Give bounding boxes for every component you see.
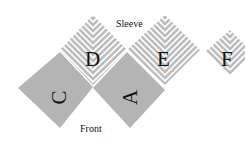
piece-c-letter: C <box>47 90 72 104</box>
piece-a-letter: A <box>118 90 143 105</box>
front-label: Front <box>80 123 102 134</box>
piece-e-letter: E <box>157 47 170 72</box>
piece-f-letter: F <box>221 47 233 72</box>
sleeve-label: Sleeve <box>116 18 143 29</box>
piece-d-letter: D <box>85 47 100 72</box>
